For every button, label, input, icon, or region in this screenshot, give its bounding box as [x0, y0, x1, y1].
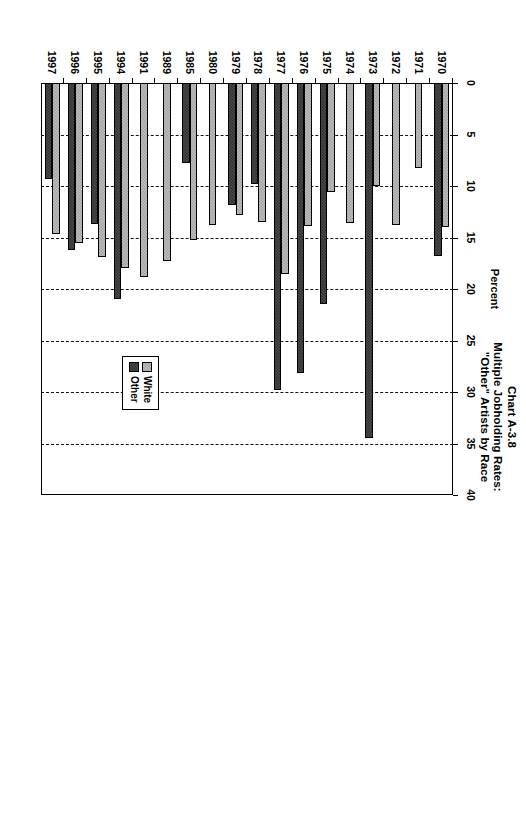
category-tick: [452, 78, 453, 83]
category-label: 1974: [344, 51, 356, 74]
category-tick: [63, 78, 64, 83]
bar-white-1970: [442, 83, 450, 227]
category-label: 1991: [138, 51, 150, 74]
bar-row: 1970: [430, 83, 453, 495]
x-axis-tick: [453, 341, 458, 342]
bar-other-1976: [297, 83, 305, 373]
category-label: 1970: [436, 51, 448, 74]
bar-white-1995: [98, 83, 106, 257]
category-label: 1985: [184, 51, 196, 74]
bar-row: 1980: [201, 83, 224, 495]
bar-white-1980: [209, 83, 217, 225]
bar-other-1994: [114, 83, 122, 299]
x-axis-tick-label: 25: [465, 335, 477, 347]
bar-other-1978: [251, 83, 259, 184]
bar-row: 1985: [178, 83, 201, 495]
chart-title-line-3: "Other" Artists by Race: [478, 0, 492, 834]
bar-row: 1979: [224, 83, 247, 495]
bar-other-1975: [320, 83, 328, 304]
bar-white-1978: [258, 83, 266, 222]
bar-other-1977: [274, 83, 282, 390]
bar-other-1970: [434, 83, 442, 256]
category-tick: [269, 78, 270, 83]
bar-row: 1972: [384, 83, 407, 495]
bar-white-1989: [163, 83, 171, 261]
x-axis-tick-label: 5: [465, 132, 477, 138]
x-axis-tick: [453, 238, 458, 239]
category-tick: [338, 78, 339, 83]
category-tick: [109, 78, 110, 83]
bar-white-1971: [415, 83, 423, 168]
legend-label: Other: [128, 376, 140, 403]
bar-row: 1975: [316, 83, 339, 495]
bar-row: 1997: [41, 83, 64, 495]
legend-entry-white: White: [141, 362, 153, 403]
x-axis-tick-label: 15: [465, 232, 477, 244]
bar-other-1996: [68, 83, 76, 250]
category-label: 1994: [115, 51, 127, 74]
bar-white-1976: [304, 83, 312, 226]
category-label: 1978: [252, 51, 264, 74]
bar-white-1975: [327, 83, 335, 192]
category-tick: [315, 78, 316, 83]
bar-white-1979: [236, 83, 244, 215]
x-axis-tick-label: 30: [465, 386, 477, 398]
bar-white-1972: [392, 83, 400, 225]
bar-row: 1996: [64, 83, 87, 495]
bar-row: 1971: [407, 83, 430, 495]
category-tick: [246, 78, 247, 83]
category-label: 1996: [69, 51, 81, 74]
category-label: 1975: [321, 51, 333, 74]
category-tick: [223, 78, 224, 83]
chart-title: Chart A-3.8 Multiple Jobholding Rates: "…: [478, 0, 519, 834]
category-tick: [292, 78, 293, 83]
x-axis-tick-label: 20: [465, 283, 477, 295]
bar-other-1997: [45, 83, 53, 179]
plot-area: Percent 0510152025303540 197019711972197…: [41, 83, 453, 495]
legend-swatch-icon: [142, 362, 152, 372]
category-tick: [154, 78, 155, 83]
category-tick: [86, 78, 87, 83]
bar-white-1997: [52, 83, 60, 234]
category-label: 1977: [275, 51, 287, 74]
x-axis-tick: [453, 444, 458, 445]
category-tick: [429, 78, 430, 83]
category-tick: [383, 78, 384, 83]
x-axis-tick-label: 10: [465, 180, 477, 192]
x-axis-tick-label: 40: [465, 489, 477, 501]
legend: WhiteOther: [122, 356, 159, 410]
bar-row: 1978: [247, 83, 270, 495]
bar-white-1996: [75, 83, 83, 243]
bar-white-1994: [121, 83, 129, 268]
bar-row: 1974: [339, 83, 362, 495]
category-label: 1972: [390, 51, 402, 74]
category-label: 1973: [367, 51, 379, 74]
bar-rows: 1970197119721973197419751976197719781979…: [41, 83, 453, 495]
chart-figure: Chart A-3.8 Multiple Jobholding Rates: "…: [0, 0, 526, 834]
legend-entry-other: Other: [128, 362, 140, 403]
x-axis-caption: Percent: [489, 269, 501, 309]
legend-swatch-icon: [129, 362, 139, 372]
legend-label: White: [141, 376, 153, 403]
bar-white-1991: [140, 83, 148, 277]
category-label: 1989: [161, 51, 173, 74]
bar-row: 1995: [87, 83, 110, 495]
bar-row: 1973: [361, 83, 384, 495]
category-tick: [406, 78, 407, 83]
bar-white-1985: [190, 83, 198, 240]
x-axis-tick: [453, 392, 458, 393]
category-tick: [360, 78, 361, 83]
category-label: 1997: [46, 51, 58, 74]
category-label: 1971: [413, 51, 425, 74]
x-axis-tick: [453, 495, 458, 496]
x-axis-tick: [453, 186, 458, 187]
bar-row: 1991: [133, 83, 156, 495]
category-label: 1980: [207, 51, 219, 74]
bar-white-1977: [281, 83, 289, 274]
bar-other-1979: [228, 83, 236, 205]
bar-white-1974: [346, 83, 354, 223]
bar-row: 1976: [293, 83, 316, 495]
bar-white-1973: [373, 83, 381, 186]
category-tick: [200, 78, 201, 83]
chart-title-line-2: Multiple Jobholding Rates:: [491, 0, 505, 834]
